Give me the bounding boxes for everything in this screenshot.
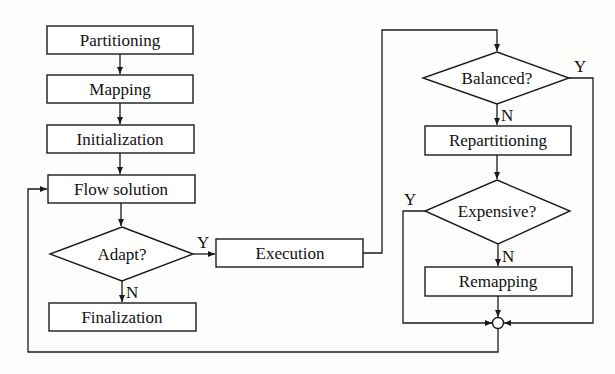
node-balanced-decision: Balanced? (423, 52, 569, 104)
node-merge-junction (493, 318, 504, 329)
node-remapping: Remapping (425, 267, 572, 296)
adapt-no-label: N (126, 283, 138, 302)
node-label: Mapping (89, 80, 151, 99)
node-execution: Execution (216, 239, 363, 267)
node-expensive-decision: Expensive? (425, 180, 570, 244)
node-repartitioning: Repartitioning (425, 126, 571, 155)
node-label: Partitioning (80, 31, 161, 50)
node-label: Remapping (459, 272, 538, 291)
node-label: Finalization (81, 308, 163, 327)
balanced-no-label: N (501, 106, 513, 125)
node-label: Flow solution (74, 180, 168, 199)
node-finalization: Finalization (49, 303, 196, 331)
node-label: Balanced? (462, 69, 533, 88)
expensive-yes-label: Y (404, 190, 416, 209)
node-mapping: Mapping (47, 75, 193, 103)
adapt-yes-label: Y (197, 233, 209, 252)
node-label: Expensive? (458, 202, 536, 221)
node-partitioning: Partitioning (47, 26, 193, 54)
node-label: Adapt? (97, 245, 146, 264)
node-flow-solution: Flow solution (48, 175, 195, 203)
expensive-no-label: N (502, 247, 514, 266)
balanced-yes-label: Y (574, 57, 586, 76)
flowchart-canvas: Partitioning Mapping Initialization Flow… (0, 0, 615, 374)
node-label: Repartitioning (449, 131, 548, 150)
node-label: Initialization (77, 130, 164, 149)
node-label: Execution (256, 244, 325, 263)
node-adapt-decision: Adapt? (50, 227, 193, 281)
node-initialization: Initialization (47, 125, 194, 153)
